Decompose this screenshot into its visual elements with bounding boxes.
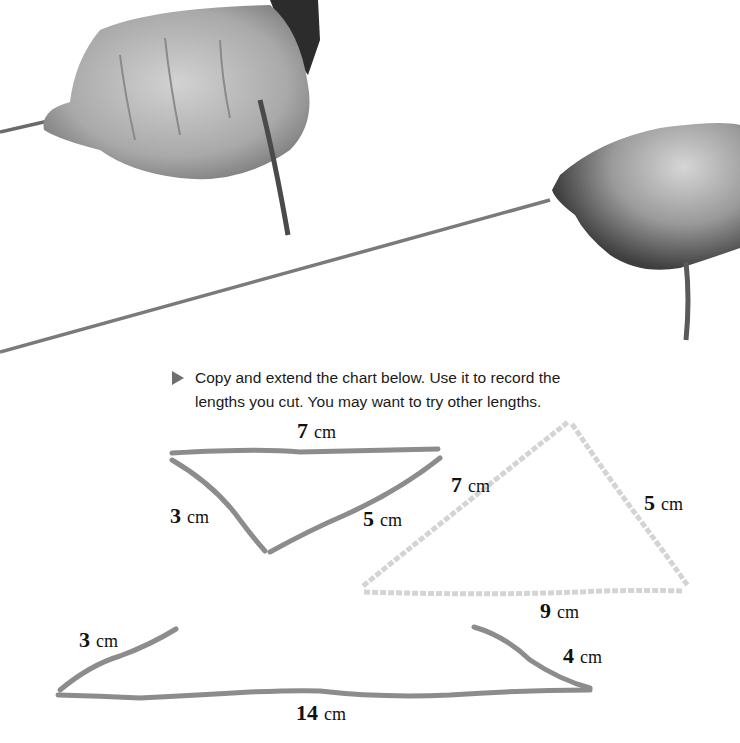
label-d2-bottom: 9cm: [540, 598, 579, 624]
label-d3-bottom: 14cm: [296, 700, 346, 726]
label-d2-left: 7cm: [451, 472, 490, 498]
label-d1-top: 7cm: [297, 418, 336, 444]
label-d3-left: 3cm: [79, 627, 118, 653]
triangle-attempt-3-4-14: [58, 627, 590, 698]
label-d1-right: 5cm: [363, 506, 402, 532]
label-d1-left: 3cm: [170, 503, 209, 529]
label-d3-right: 4cm: [563, 643, 602, 669]
triangle-attempt-7-3-5: [172, 449, 440, 552]
label-d2-right: 5cm: [644, 490, 683, 516]
